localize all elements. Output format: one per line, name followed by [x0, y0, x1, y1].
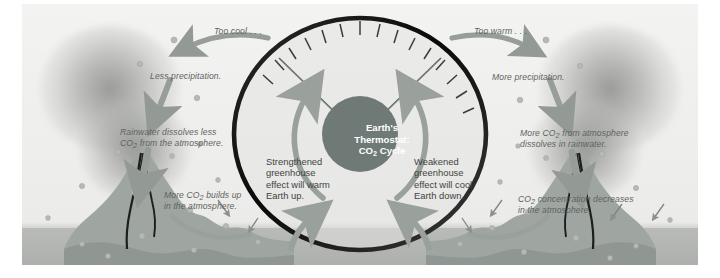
- figure-canvas: Earth's Thermostat: CO2 Cycle Too cool .…: [0, 0, 720, 278]
- label-more-co2-builds-up: More CO2 builds up in the atmosphere.: [164, 190, 241, 212]
- label-less-precipitation: Less precipitation.: [150, 71, 221, 82]
- hub-line-2: Thermostat:: [340, 134, 424, 146]
- label-co2-concentration-decreases: CO2 concentration decreases in the atmos…: [518, 194, 634, 216]
- illustration-plate: Earth's Thermostat: CO2 Cycle Too cool .…: [22, 4, 698, 265]
- label-more-co2-dissolves: More CO2 from atmosphere dissolves in ra…: [520, 128, 629, 150]
- hub-line-3: CO2 Cycle: [340, 145, 424, 158]
- outcome-strengthened-greenhouse: Strengthened greenhouse effect will warm…: [266, 156, 330, 202]
- hub-line-1: Earth's: [340, 122, 424, 134]
- hub-label: Earth's Thermostat: CO2 Cycle: [340, 122, 424, 158]
- label-too-cool: Too cool . . .: [214, 26, 262, 37]
- label-too-warm: Too warm . . .: [474, 26, 527, 37]
- label-more-precipitation: More precipitation.: [492, 72, 565, 83]
- outcome-weakened-greenhouse: Weakened greenhouse effect will cool Ear…: [414, 156, 472, 202]
- label-rainwater-dissolves-less: Rainwater dissolves less CO2 from the at…: [120, 127, 223, 149]
